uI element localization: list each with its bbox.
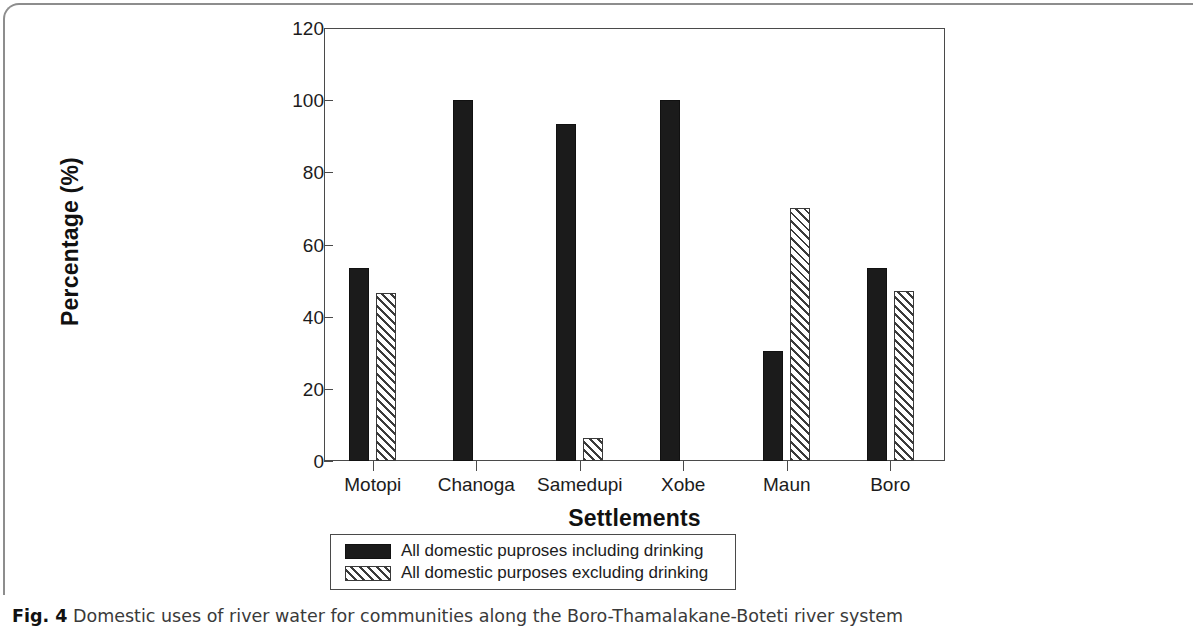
- figure-number: Fig. 4: [12, 606, 67, 626]
- y-tick-mark: [324, 389, 333, 390]
- x-axis-title: Settlements: [324, 505, 945, 532]
- chart-legend: All domestic puproses including drinking…: [330, 534, 736, 590]
- x-tick-mark: [683, 461, 684, 471]
- y-tick-label: 0: [278, 452, 324, 471]
- legend-item-excluding-drinking: All domestic purposes excluding drinking: [345, 562, 735, 584]
- solid-black-swatch: [345, 544, 391, 559]
- plot-area-frame: [324, 28, 945, 461]
- bar-motopi-series1: [349, 268, 369, 461]
- bar-chart: 020406080100120 Percentage (%) MotopiCha…: [0, 0, 1196, 600]
- bar-chanoga-series1: [453, 100, 473, 461]
- y-tick-mark: [324, 100, 333, 101]
- x-tick-mark: [787, 461, 788, 471]
- x-tick-mark: [476, 461, 477, 471]
- y-axis-tick-labels: 020406080100120: [270, 0, 324, 600]
- y-tick-mark: [324, 317, 333, 318]
- x-tick-mark: [373, 461, 374, 471]
- y-tick-label: 60: [278, 235, 324, 254]
- bar-maun-series1: [763, 351, 783, 461]
- y-tick-label: 20: [278, 379, 324, 398]
- bar-boro-series1: [867, 268, 887, 461]
- caption-text: Domestic uses of river water for communi…: [67, 606, 903, 626]
- legend-label: All domestic purposes excluding drinking: [401, 563, 708, 583]
- y-tick-label: 120: [278, 19, 324, 38]
- x-tick-label: Boro: [820, 474, 960, 496]
- bar-motopi-series2: [376, 293, 396, 461]
- y-tick-mark: [324, 172, 333, 173]
- y-tick-mark: [324, 461, 333, 462]
- hatched-swatch: [345, 566, 391, 581]
- bar-maun-series2: [790, 208, 810, 461]
- y-tick-label: 100: [278, 91, 324, 110]
- bar-xobe-series1: [660, 100, 680, 461]
- x-tick-mark: [580, 461, 581, 471]
- x-tick-mark: [890, 461, 891, 471]
- figure-caption: Fig. 4 Domestic uses of river water for …: [12, 606, 1192, 626]
- bar-samedupi-series2: [583, 438, 603, 461]
- bar-samedupi-series1: [556, 124, 576, 461]
- bar-boro-series2: [894, 291, 914, 461]
- legend-label: All domestic puproses including drinking: [401, 541, 703, 561]
- y-axis-title: Percentage (%): [57, 112, 84, 372]
- y-tick-label: 80: [278, 163, 324, 182]
- y-tick-label: 40: [278, 307, 324, 326]
- legend-item-including-drinking: All domestic puproses including drinking: [345, 540, 735, 562]
- y-tick-mark: [324, 28, 333, 29]
- y-tick-mark: [324, 245, 333, 246]
